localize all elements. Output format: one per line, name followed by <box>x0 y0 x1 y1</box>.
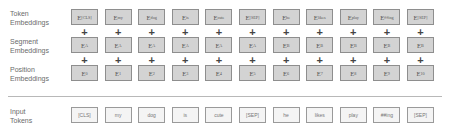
plus-icon: + <box>373 27 400 37</box>
plus-icon: + <box>273 27 300 37</box>
embedding-subscript: dog <box>151 15 157 20</box>
input-token-box: [SEP] <box>239 107 266 123</box>
embedding-subscript: [CLS] <box>81 15 91 20</box>
embedding-subscript: 8 <box>354 71 356 76</box>
position-embedding-box: E7 <box>306 65 333 81</box>
position-embedding-box: E0 <box>71 65 98 81</box>
plus-icon: + <box>306 27 333 37</box>
plus-icon: + <box>105 27 132 37</box>
embedding-subscript: B <box>287 43 290 48</box>
plus-icon: + <box>239 55 266 65</box>
embedding-subscript: 0 <box>85 71 87 76</box>
segment-embedding-box: EA <box>105 37 132 53</box>
embedding-subscript: B <box>320 43 323 48</box>
segment-embedding-box: EB <box>306 37 333 53</box>
embedding-subscript: 3 <box>186 71 188 76</box>
plus-icon: + <box>172 27 199 37</box>
embedding-subscript: my <box>117 15 122 20</box>
plus-icon: + <box>138 27 165 37</box>
embedding-subscript: 1 <box>119 71 121 76</box>
segment-embedding-box: EB <box>407 37 434 53</box>
position-embedding-box: E5 <box>239 65 266 81</box>
token-embedding-box: Elikes <box>306 9 333 25</box>
input-token-box: my <box>105 107 132 123</box>
plus-icon: + <box>340 27 367 37</box>
label-line: Segment <box>10 37 68 46</box>
label-line: Embeddings <box>10 46 68 55</box>
plus-icon: + <box>172 55 199 65</box>
label-line: Embeddings <box>10 74 68 83</box>
plus-icon: + <box>407 27 434 37</box>
label-segment-embeddings: Segment Embeddings <box>10 37 68 55</box>
embedding-subscript: A <box>152 43 155 48</box>
plus-icon: + <box>407 55 434 65</box>
segment-embedding-box: EA <box>138 37 165 53</box>
input-token-box: cute <box>205 107 232 123</box>
plus-icon: + <box>205 27 232 37</box>
token-embedding-box: Eis <box>172 9 199 25</box>
embedding-subscript: likes <box>318 15 326 20</box>
segment-embedding-box: EA <box>172 37 199 53</box>
embedding-subscript: 4 <box>220 71 222 76</box>
segment-embedding-box: EB <box>340 37 367 53</box>
embedding-subscript: B <box>387 43 390 48</box>
embedding-subscript: 2 <box>153 71 155 76</box>
embedding-subscript: B <box>354 43 357 48</box>
segment-embedding-box: EB <box>373 37 400 53</box>
token-embedding-box: E[CLS] <box>71 9 98 25</box>
plus-icon: + <box>71 27 98 37</box>
plus-icon: + <box>205 55 232 65</box>
token-embedding-box: E##ing <box>373 9 400 25</box>
position-embedding-box: E9 <box>373 65 400 81</box>
embedding-subscript: 6 <box>287 71 289 76</box>
segment-embedding-box: EA <box>205 37 232 53</box>
token-embedding-box: Ehe <box>273 9 300 25</box>
token-embedding-box: E[SEP] <box>407 9 434 25</box>
embedding-subscript: ##ing <box>384 15 394 20</box>
position-embedding-box: E1 <box>105 65 132 81</box>
segment-embedding-box: EA <box>71 37 98 53</box>
plus-icon: + <box>340 55 367 65</box>
input-token-box: he <box>273 107 300 123</box>
input-token-box: likes <box>306 107 333 123</box>
embedding-subscript: A <box>219 43 222 48</box>
embedding-subscript: A <box>85 43 88 48</box>
input-token-box: play <box>340 107 367 123</box>
embedding-subscript: 5 <box>253 71 255 76</box>
input-token-box: [SEP] <box>407 107 434 123</box>
position-embedding-box: E4 <box>205 65 232 81</box>
plus-icon: + <box>373 55 400 65</box>
plus-icon: + <box>306 55 333 65</box>
label-line: Token <box>10 9 68 18</box>
plus-icon: + <box>138 55 165 65</box>
embedding-subscript: 9 <box>388 71 390 76</box>
input-token-box: [CLS] <box>71 107 98 123</box>
embedding-subscript: [SEP] <box>249 15 259 20</box>
embedding-subscript: play <box>352 15 359 20</box>
token-embedding-box: Emy <box>105 9 132 25</box>
position-embedding-box: E2 <box>138 65 165 81</box>
embedding-subscript: cute <box>217 15 224 20</box>
token-embedding-box: Edog <box>138 9 165 25</box>
token-embedding-box: E[SEP] <box>239 9 266 25</box>
label-position-embeddings: Position Embeddings <box>10 65 68 83</box>
label-token-embeddings: Token Embeddings <box>10 9 68 27</box>
label-line: Position <box>10 65 68 74</box>
token-embedding-box: Eplay <box>340 9 367 25</box>
label-line: Embeddings <box>10 18 68 27</box>
embedding-subscript: A <box>253 43 256 48</box>
plus-icon: + <box>239 27 266 37</box>
input-token-box: dog <box>138 107 165 123</box>
plus-icon: + <box>273 55 300 65</box>
embedding-subscript: A <box>186 43 189 48</box>
label-line: Input <box>10 107 68 116</box>
segment-embedding-box: EA <box>239 37 266 53</box>
embedding-subscript: 10 <box>420 71 424 76</box>
position-embedding-box: E3 <box>172 65 199 81</box>
embedding-subscript: 7 <box>321 71 323 76</box>
plus-icon: + <box>105 55 132 65</box>
input-token-box: is <box>172 107 199 123</box>
divider <box>8 96 442 97</box>
token-embedding-box: Ecute <box>205 9 232 25</box>
plus-icon: + <box>71 55 98 65</box>
